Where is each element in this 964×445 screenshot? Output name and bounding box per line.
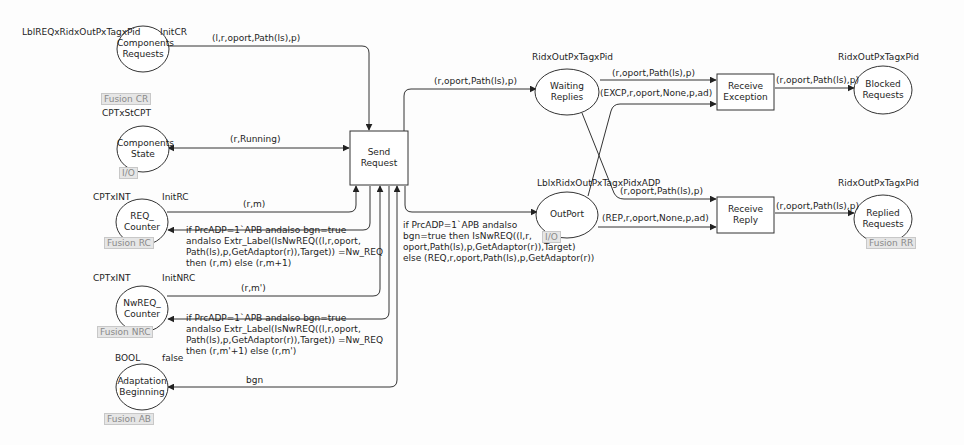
place-adaptation-beginning-name: Adaptation Beginning xyxy=(116,376,168,398)
fusion-tag-ab: Fusion AB xyxy=(104,413,154,425)
arc-label-outport-to-rexc: (EXCP,r,oport,None,p,ad) xyxy=(600,88,712,99)
place-components-requests-name: Components Requests xyxy=(117,38,169,60)
arc-label-outport-to-rrep: (REP,r,oport,None,p,ad) xyxy=(602,213,709,224)
place-req-counter-name: REQ_ Counter xyxy=(116,211,168,233)
arc-label-ab-send: bgn xyxy=(246,375,263,386)
init-req-counter: InitRC xyxy=(162,192,188,203)
transition-name-line1: Receive xyxy=(717,81,774,92)
petri-net-canvas: Components Requests Components State REQ… xyxy=(0,0,964,445)
place-name-line2: Counter xyxy=(116,222,168,233)
place-blocked-requests-name: Blocked Requests xyxy=(854,79,912,101)
place-name-line2: State xyxy=(117,149,169,160)
place-name-line1: NwREQ_ xyxy=(116,298,168,309)
place-name-line1: REQ_ xyxy=(116,211,168,222)
transition-receive-reply-name: Receive Reply xyxy=(717,204,774,226)
place-name-line2: Requests xyxy=(117,49,169,60)
colorset-nwreq-counter: CPTxINT xyxy=(93,273,130,284)
port-tag-components-state: I/O xyxy=(119,167,138,179)
place-nwreq-counter-name: NwREQ_ Counter xyxy=(116,298,168,320)
arc-label-nrc-to-send: (r,m') xyxy=(241,283,266,294)
place-name-line1: Components xyxy=(117,38,169,49)
fusion-tag-rc: Fusion RC xyxy=(104,237,154,249)
colorset-adaptation-beginning: BOOL xyxy=(115,353,140,364)
place-name-line2: Requests xyxy=(854,90,912,101)
colorset-components-state: CPTxStCPT xyxy=(102,108,151,119)
transition-name-line2: Exception xyxy=(717,92,774,103)
place-name-line2: Beginning xyxy=(116,387,168,398)
arc-send-to-wr xyxy=(404,89,536,131)
arc-send-to-rc xyxy=(168,186,370,230)
init-components-requests: InitCR xyxy=(160,27,187,38)
place-name-line1: Waiting xyxy=(535,81,599,92)
transition-name-line2: Request xyxy=(350,158,408,169)
place-waiting-replies-name: Waiting Replies xyxy=(535,81,599,103)
place-name-line1: OutPort xyxy=(536,209,598,220)
arc-label-send-to-rc: if PrcADP=1`APB andalso bgn=true andalso… xyxy=(186,225,383,269)
arc-label-wr-to-rexc: (r,oport,Path(ls),p) xyxy=(612,68,695,79)
place-name-line1: Adaptation xyxy=(116,376,168,387)
fusion-tag-cr: Fusion CR xyxy=(101,93,151,105)
transition-receive-exception-name: Receive Exception xyxy=(717,81,774,103)
fusion-tag-rr: Fusion RR xyxy=(866,237,916,249)
colorset-waiting-replies: RidxOutPxTagxPid xyxy=(532,52,613,63)
colorset-components-requests: LblREQxRidxOutPxTagxPid xyxy=(22,27,140,38)
init-nwreq-counter: InitNRC xyxy=(162,273,195,284)
transition-send-request-name: Send Request xyxy=(350,147,408,169)
arc-cr-to-send xyxy=(168,46,369,130)
place-outport-name: OutPort xyxy=(536,209,598,220)
arc-label-rexc-to-blocked: (r,oport,Path(ls),p) xyxy=(776,75,859,86)
arc-send-to-outport xyxy=(405,186,537,212)
arc-label-send-to-nrc: if PrcADP=1`APB andalso bgn=true andalso… xyxy=(186,313,383,357)
colorset-blocked-requests: RidxOutPxTagxPid xyxy=(838,52,919,63)
arc-label-send-to-wr: (r,oport,Path(ls),p) xyxy=(434,76,517,87)
arc-label-wr-to-rrep: (r,oport,Path(ls),p) xyxy=(620,186,703,197)
colorset-req-counter: CPTxINT xyxy=(93,192,130,203)
place-name-line1: Components xyxy=(117,138,169,149)
place-name-line2: Replies xyxy=(535,92,599,103)
place-name-line1: Blocked xyxy=(854,79,912,90)
arc-label-send-to-outport: if PrcADP=1`APB andalso bgn=true then Is… xyxy=(403,220,594,264)
arc-label-cr-to-send: (l,r,oport,Path(ls),p) xyxy=(212,33,300,44)
place-name-line1: Replied xyxy=(854,208,912,219)
transition-name-line1: Receive xyxy=(717,204,774,215)
arc-label-rrep-to-replied: (r,oport,Path(ls),p) xyxy=(776,201,859,212)
colorset-replied-requests: RidxOutPxTagxPid xyxy=(838,178,919,189)
place-components-state-name: Components State xyxy=(117,138,169,160)
place-replied-requests-name: Replied Requests xyxy=(854,208,912,230)
place-name-line2: Requests xyxy=(854,219,912,230)
arc-label-state-send: (r,Running) xyxy=(230,134,280,145)
transition-name-line1: Send xyxy=(350,147,408,158)
arc-label-rc-to-send: (r,m) xyxy=(243,199,265,210)
init-adaptation-beginning: false xyxy=(162,353,183,364)
transition-name-line2: Reply xyxy=(717,215,774,226)
fusion-tag-nrc: Fusion NRC xyxy=(97,326,153,338)
place-name-line2: Counter xyxy=(116,309,168,320)
